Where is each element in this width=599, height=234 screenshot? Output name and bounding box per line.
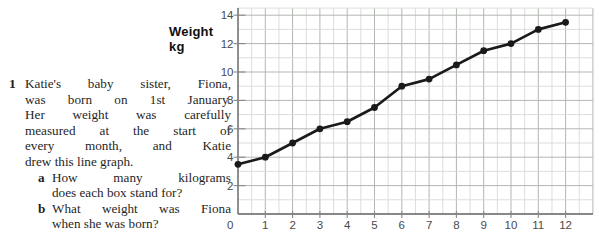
x-tick-label: 8 <box>453 219 459 231</box>
y-tick-label: 12 <box>221 38 234 50</box>
data-point <box>317 125 324 132</box>
y-tick-label: 0 <box>227 219 233 231</box>
y-tick-label: 8 <box>227 94 233 106</box>
data-point <box>371 104 378 111</box>
x-tick-label: 5 <box>371 219 377 231</box>
y-tick-label: 4 <box>227 151 234 163</box>
data-point <box>480 47 487 54</box>
x-tick-label: 9 <box>480 219 486 231</box>
grid <box>238 8 593 214</box>
data-point <box>562 19 569 26</box>
y-tick-label: 14 <box>221 9 234 21</box>
page: 1 Katie's baby sister, Fiona,was born on… <box>0 0 599 234</box>
data-point <box>235 161 242 168</box>
data-point <box>426 76 433 83</box>
x-tick-label: 12 <box>559 219 572 231</box>
data-point <box>344 118 351 125</box>
data-point <box>262 154 269 161</box>
weight-line-chart: 02468101214123456789101112 <box>0 0 599 234</box>
tick-labels: 02468101214123456789101112 <box>221 9 572 230</box>
y-tick-label: 6 <box>227 123 233 135</box>
data-point <box>535 26 542 33</box>
x-tick-label: 11 <box>532 219 544 231</box>
x-tick-label: 7 <box>426 219 432 231</box>
data-point <box>398 83 405 90</box>
x-tick-label: 3 <box>317 219 323 231</box>
x-tick-label: 10 <box>505 219 518 231</box>
data-point <box>289 140 296 147</box>
tick-marks <box>234 15 566 218</box>
x-tick-label: 6 <box>399 219 405 231</box>
x-tick-label: 2 <box>289 219 295 231</box>
y-tick-label: 2 <box>227 180 233 192</box>
y-tick-label: 10 <box>221 66 234 78</box>
x-tick-label: 1 <box>262 219 268 231</box>
data-point <box>453 62 460 69</box>
data-point <box>508 40 515 47</box>
x-tick-label: 4 <box>344 219 351 231</box>
